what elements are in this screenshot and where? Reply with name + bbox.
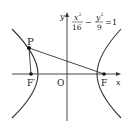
x-axis-arrow-icon	[116, 72, 121, 76]
hyperbola-diagram: P F′ F O x y x 2 16 − y 2 9 = 1	[0, 0, 129, 133]
label-origin: O	[57, 78, 64, 88]
label-f-prime: F′	[27, 78, 35, 88]
label-p: P	[27, 36, 34, 47]
label-x-axis: x	[116, 78, 121, 87]
hyperbola-left-branch	[12, 29, 38, 118]
eq-y-exp: 2	[101, 12, 104, 17]
eq-x-exp: 2	[79, 12, 82, 17]
eq-minus: −	[85, 18, 92, 27]
eq-equals: =	[105, 18, 112, 27]
segment-pf	[29, 48, 104, 74]
point-f-prime	[29, 72, 33, 76]
label-f: F	[101, 78, 107, 88]
eq-y-den: 9	[97, 23, 102, 32]
point-f	[102, 72, 106, 76]
equation: x 2 16 − y 2 9 = 1	[72, 12, 117, 32]
y-axis-arrow-icon	[65, 12, 69, 17]
label-y-axis: y	[59, 12, 65, 21]
eq-x-den: 16	[72, 23, 82, 32]
eq-rhs: 1	[112, 18, 117, 27]
